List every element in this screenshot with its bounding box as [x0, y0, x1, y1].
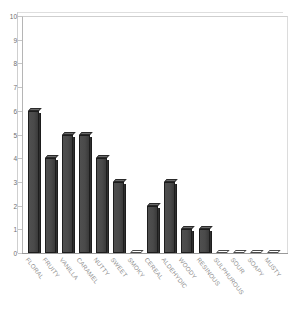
bar[interactable]	[62, 135, 75, 254]
y-axis-tick-label: 0	[13, 250, 17, 257]
bar-top-face	[147, 203, 161, 206]
bar-side-face	[56, 160, 58, 253]
x-axis-tick-label: SOUR	[229, 256, 246, 275]
bar-side-face	[124, 184, 126, 253]
y-axis-tick-label: 7	[13, 84, 17, 91]
bar-top-face	[233, 250, 247, 253]
bar[interactable]	[113, 182, 126, 253]
bar-top-face	[45, 155, 59, 158]
bar-body	[147, 206, 158, 253]
bar-body	[113, 182, 124, 253]
y-axis-tick-label: 8	[13, 60, 17, 67]
bar-body	[164, 182, 175, 253]
bar-series	[22, 16, 288, 253]
x-axis-tick-label: MUSTY	[263, 256, 282, 278]
bar-chart: 012345678910 FLORALFRUITYVANILLACARAMELN…	[0, 0, 296, 311]
bar-side-face	[175, 184, 177, 253]
bar[interactable]	[96, 158, 109, 253]
y-axis-tick-label: 2	[13, 202, 17, 209]
bar[interactable]	[164, 182, 177, 253]
bar-side-face	[73, 137, 75, 254]
y-axis-tick-label: 4	[13, 155, 17, 162]
y-axis-tick-label: 6	[13, 107, 17, 114]
y-axis-tick-label: 10	[10, 13, 17, 20]
bar[interactable]	[267, 249, 280, 253]
bar-side-face	[90, 137, 92, 254]
bar-top-face	[250, 250, 264, 253]
bar-body	[96, 158, 107, 253]
bar-top-face	[96, 155, 110, 158]
x-axis: FLORALFRUITYVANILLACARAMELNUTTYSWEETSMOK…	[22, 254, 288, 311]
bar-body	[62, 135, 73, 254]
bar-top-face	[130, 250, 144, 253]
bar[interactable]	[79, 135, 92, 254]
bar-top-face	[199, 226, 213, 229]
bar[interactable]	[216, 249, 229, 253]
bar-top-face	[79, 132, 93, 135]
y-axis: 012345678910	[0, 16, 20, 253]
bar-side-face	[192, 231, 194, 253]
x-axis-tick-label: SOAPY	[246, 256, 265, 278]
bar-body	[79, 135, 90, 254]
bar[interactable]	[181, 229, 194, 253]
bar-top-face	[267, 250, 281, 253]
bar-side-face	[210, 231, 212, 253]
y-axis-tick-label: 3	[13, 178, 17, 185]
bar[interactable]	[250, 249, 263, 253]
bar-top-face	[28, 108, 42, 111]
bar-top-face	[216, 250, 230, 253]
bar[interactable]	[233, 249, 246, 253]
bar[interactable]	[147, 206, 160, 253]
y-axis-tick-label: 5	[13, 131, 17, 138]
bar[interactable]	[28, 111, 41, 253]
bar-top-face	[164, 179, 178, 182]
y-axis-tick-label: 9	[13, 36, 17, 43]
bar-side-face	[39, 113, 41, 253]
bar-side-face	[158, 208, 160, 253]
bar-top-face	[113, 179, 127, 182]
bar-body	[28, 111, 39, 253]
bar[interactable]	[130, 249, 143, 253]
bar-body	[45, 158, 56, 253]
bar-top-face	[62, 132, 76, 135]
bar-body	[181, 229, 192, 253]
bar-side-face	[107, 160, 109, 253]
bar[interactable]	[199, 229, 212, 253]
y-axis-tick-label: 1	[13, 226, 17, 233]
bar-top-face	[181, 226, 195, 229]
bar-body	[199, 229, 210, 253]
bar[interactable]	[45, 158, 58, 253]
